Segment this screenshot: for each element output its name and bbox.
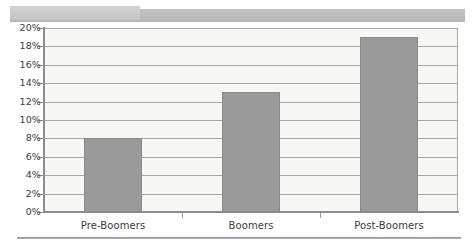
y-axis-label: 8% (26, 133, 41, 143)
value-axis-line (43, 27, 45, 213)
y-axis-label: 0% (26, 207, 41, 217)
x-axis-tick (182, 213, 183, 218)
bar (360, 37, 418, 212)
top-banner (0, 0, 472, 26)
footer-rule (17, 237, 461, 239)
y-axis-label: 12% (20, 97, 41, 107)
y-axis-label: 4% (26, 170, 41, 180)
x-axis-label: Post-Boomers (320, 220, 458, 231)
y-axis-label: 16% (20, 60, 41, 70)
y-axis-label: 18% (20, 41, 41, 51)
gridline (44, 28, 458, 29)
bar-chart: 20%18%16%14%12%10%8%6%4%2%0% Pre-Boomers… (0, 26, 472, 222)
y-axis-label: 14% (20, 78, 41, 88)
y-axis-label: 10% (20, 115, 41, 125)
bar (84, 138, 142, 212)
y-axis-label: 6% (26, 152, 41, 162)
x-axis-label: Boomers (182, 220, 320, 231)
y-axis-label: 2% (26, 189, 41, 199)
x-axis-label: Pre-Boomers (44, 220, 182, 231)
x-axis-tick (320, 213, 321, 218)
y-axis-label: 20% (20, 23, 41, 33)
bar (222, 92, 280, 212)
banner-band-short (10, 6, 140, 20)
